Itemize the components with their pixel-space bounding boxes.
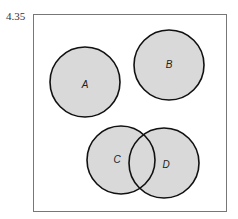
set-b-label: B [166, 59, 173, 70]
venn-diagram: ABCD [0, 0, 238, 219]
set-c-label: C [113, 154, 121, 165]
set-d-label: D [162, 159, 169, 170]
set-a-label: A [81, 79, 89, 90]
